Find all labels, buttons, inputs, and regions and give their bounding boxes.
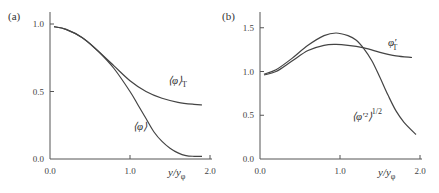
curve-phi-mean-T: [54, 27, 202, 105]
label-phi-mean-T: ⟨φ⟩T: [168, 74, 187, 89]
y-tick-label: 1.0: [243, 67, 255, 77]
panel-b-y-ticks: 0.00.51.01.5: [243, 23, 264, 164]
x-tick-label: 0.0: [44, 166, 56, 176]
label-phi-mean: ⟨φ⟩: [133, 120, 148, 132]
panel-b: (b) 0.00.51.01.5 0.01.02.0 φ′T ⟨φ′²⟩1/2 …: [222, 10, 426, 181]
curve-phi-mean: [54, 27, 202, 157]
panel-b-x-label: y/yφ: [377, 166, 396, 181]
panel-a-label: (a): [8, 10, 21, 23]
panel-a: (a) 0.00.51.0 0.01.02.0 ⟨φ⟩T ⟨φ⟩ y/yφ: [8, 10, 216, 181]
panel-b-label: (b): [222, 10, 235, 23]
panel-a-x-ticks: 0.01.02.0: [44, 155, 216, 176]
label-phi-prime-T: φ′T: [388, 36, 398, 52]
y-tick-label: 0.5: [33, 87, 45, 97]
curve-phi-prime-T: [264, 44, 412, 75]
panel-b-x-ticks: 0.01.02.0: [254, 155, 426, 176]
panel-a-x-label: y/yφ: [167, 166, 186, 181]
label-phi-prime-rms: ⟨φ′²⟩1/2: [352, 107, 382, 122]
x-tick-label: 0.0: [254, 166, 266, 176]
y-tick-label: 0.5: [243, 110, 255, 120]
x-tick-label: 1.0: [334, 166, 346, 176]
y-tick-label: 0.0: [243, 154, 255, 164]
panel-a-y-ticks: 0.00.51.0: [33, 19, 54, 164]
x-tick-label: 1.0: [124, 166, 136, 176]
x-tick-label: 2.0: [204, 166, 216, 176]
y-tick-label: 1.0: [33, 19, 45, 29]
figure: (a) 0.00.51.0 0.01.02.0 ⟨φ⟩T ⟨φ⟩ y/yφ (b…: [0, 0, 439, 193]
y-tick-label: 1.5: [243, 23, 255, 33]
y-tick-label: 0.0: [33, 154, 45, 164]
x-tick-label: 2.0: [414, 166, 426, 176]
